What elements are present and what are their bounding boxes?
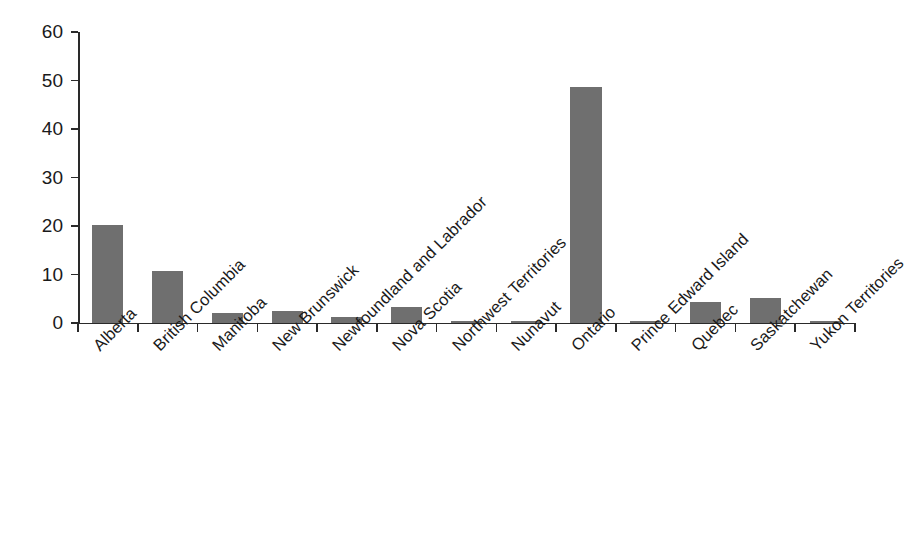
x-axis-tick bbox=[137, 324, 139, 332]
y-axis-tick-label: 40 bbox=[0, 119, 63, 138]
y-axis-tick-label: 20 bbox=[0, 216, 63, 235]
y-axis-tick bbox=[71, 177, 78, 179]
x-axis-tick bbox=[436, 324, 438, 332]
x-axis-tick bbox=[854, 324, 856, 332]
x-axis-tick bbox=[77, 324, 79, 332]
y-axis-tick bbox=[71, 225, 78, 227]
x-axis-tick bbox=[615, 324, 617, 332]
y-axis-tick bbox=[71, 31, 78, 33]
x-axis-tick bbox=[316, 324, 318, 332]
y-axis-tick-label: 10 bbox=[0, 265, 63, 284]
bar bbox=[92, 225, 123, 323]
y-axis-tick bbox=[71, 274, 78, 276]
x-axis-tick bbox=[675, 324, 677, 332]
x-axis-tick bbox=[555, 324, 557, 332]
x-axis-tick bbox=[794, 324, 796, 332]
y-axis-tick-label: 30 bbox=[0, 168, 63, 187]
y-axis-tick-label: 0 bbox=[0, 313, 63, 332]
bars-group bbox=[78, 32, 855, 323]
y-axis-tick bbox=[71, 80, 78, 82]
x-axis-tick bbox=[376, 324, 378, 332]
y-axis-tick bbox=[71, 128, 78, 130]
x-axis-tick bbox=[197, 324, 199, 332]
bar bbox=[570, 87, 601, 323]
x-axis-tick bbox=[257, 324, 259, 332]
y-axis-tick-label: 50 bbox=[0, 71, 63, 90]
y-axis-tick-label: 60 bbox=[0, 22, 63, 41]
x-axis-tick bbox=[735, 324, 737, 332]
x-axis-tick bbox=[496, 324, 498, 332]
